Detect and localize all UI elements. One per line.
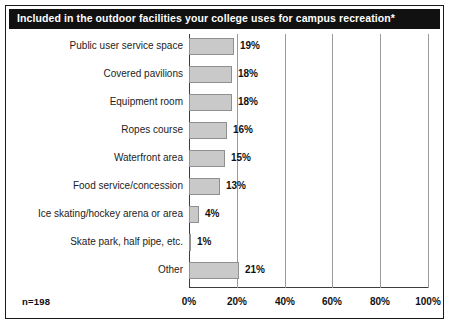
category-label: Skate park, half pipe, etc. — [0, 236, 183, 247]
bar — [189, 38, 234, 55]
category-label: Ice skating/hockey arena or area — [0, 208, 183, 219]
category-label: Covered pavilions — [0, 68, 183, 79]
bar — [189, 122, 227, 139]
bar — [189, 234, 191, 251]
bar — [189, 66, 232, 83]
axis-baseline — [189, 287, 428, 288]
category-label: Ropes course — [0, 124, 183, 135]
page-title: Included in the outdoor facilities your … — [17, 12, 395, 24]
bar-value-label: 16% — [233, 124, 253, 135]
x-axis-tick-label: 100% — [406, 296, 450, 307]
chart-row: Food service/concession13% — [6, 174, 443, 202]
chart-row: Ice skating/hockey arena or area4% — [6, 202, 443, 230]
bar-value-label: 18% — [238, 96, 258, 107]
chart-row: Other21% — [6, 258, 443, 286]
bar-value-label: 21% — [245, 264, 265, 275]
category-label: Equipment room — [0, 96, 183, 107]
x-axis-tick-label: 0% — [167, 296, 211, 307]
bar-value-label: 19% — [240, 40, 260, 51]
chart-figure: Included in the outdoor facilities your … — [5, 5, 444, 319]
bar — [189, 178, 220, 195]
chart-row: Public user service space19% — [6, 34, 443, 62]
category-label: Other — [0, 264, 183, 275]
category-label: Food service/concession — [0, 180, 183, 191]
chart-row: Skate park, half pipe, etc.1% — [6, 230, 443, 258]
bar — [189, 94, 232, 111]
chart-row: Ropes course16% — [6, 118, 443, 146]
plot-area: n=198 0%20%40%60%80%100%Public user serv… — [6, 34, 443, 318]
chart-title-banner: Included in the outdoor facilities your … — [9, 9, 440, 29]
x-axis-tick-label: 20% — [215, 296, 259, 307]
bar-value-label: 15% — [231, 152, 251, 163]
x-axis-tick-label: 40% — [263, 296, 307, 307]
category-label: Public user service space — [0, 40, 183, 51]
x-axis-tick-label: 80% — [358, 296, 402, 307]
chart-row: Waterfront area15% — [6, 146, 443, 174]
x-axis-tick-label: 60% — [310, 296, 354, 307]
sample-size-label: n=198 — [22, 296, 50, 307]
bar-value-label: 18% — [238, 68, 258, 79]
category-label: Waterfront area — [0, 152, 183, 163]
chart-row: Equipment room18% — [6, 90, 443, 118]
bar-value-label: 1% — [197, 236, 211, 247]
bar — [189, 206, 199, 223]
bar-value-label: 4% — [205, 208, 219, 219]
bar-value-label: 13% — [226, 180, 246, 191]
chart-row: Covered pavilions18% — [6, 62, 443, 90]
bar — [189, 150, 225, 167]
bar — [189, 262, 239, 279]
